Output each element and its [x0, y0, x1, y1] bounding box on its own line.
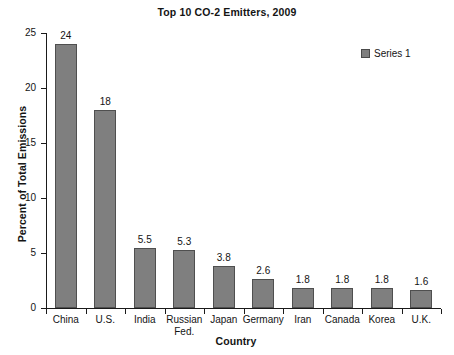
bar — [55, 44, 77, 308]
y-axis-tick-label: 10 — [2, 193, 36, 203]
bar — [213, 266, 235, 308]
bar-value-label: 3.8 — [204, 253, 244, 263]
y-axis-tick-label: 25 — [2, 28, 36, 38]
y-axis-tick-label: 5 — [2, 248, 36, 258]
bar-value-label: 5.3 — [164, 237, 204, 247]
bar-value-label: 1.8 — [283, 275, 323, 285]
bar-value-label: 2.6 — [243, 266, 283, 276]
bar-value-label: 1.8 — [362, 275, 402, 285]
bar — [94, 110, 116, 308]
bar — [252, 279, 274, 308]
legend-swatch-series-1 — [361, 49, 370, 58]
x-axis-title: Country — [46, 335, 426, 347]
chart-title: Top 10 CO-2 Emitters, 2009 — [0, 6, 454, 18]
y-axis-title: Percent of Total Emissions — [16, 74, 28, 274]
y-axis-tick — [41, 88, 46, 89]
bar-value-label: 24 — [46, 31, 86, 41]
x-axis-category-label: U.K. — [395, 314, 447, 326]
bar-value-label: 1.6 — [401, 277, 441, 287]
bar — [292, 288, 314, 308]
y-axis-tick — [41, 253, 46, 254]
bar — [173, 250, 195, 308]
bar-value-label: 1.8 — [322, 275, 362, 285]
y-axis-tick — [41, 143, 46, 144]
bar — [410, 290, 432, 308]
bar-value-label: 18 — [85, 97, 125, 107]
bar-value-label: 5.5 — [125, 235, 165, 245]
bar — [371, 288, 393, 308]
legend-label-series-1: Series 1 — [374, 48, 411, 59]
bar — [331, 288, 353, 308]
y-axis-tick — [41, 198, 46, 199]
bar — [134, 248, 156, 309]
y-axis-line — [46, 33, 47, 309]
chart-legend: Series 1 — [361, 48, 411, 59]
y-axis-tick-label: 0 — [2, 303, 36, 313]
y-axis-tick-label: 15 — [2, 138, 36, 148]
y-axis-tick-label: 20 — [2, 83, 36, 93]
bar-chart: Top 10 CO-2 Emitters, 2009 Series 1 Perc… — [0, 0, 454, 355]
